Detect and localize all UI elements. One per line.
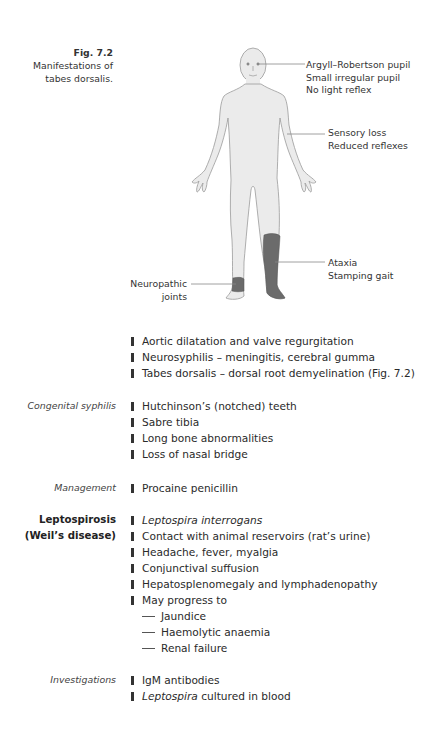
- callout-line: Sensory loss: [328, 127, 408, 140]
- list-item: Tabes dorsalis – dorsal root demyelinati…: [130, 365, 415, 381]
- list-item: May progress to: [130, 592, 377, 608]
- list-item: Aortic dilatation and valve regurgitatio…: [130, 333, 415, 349]
- list-item: Contact with animal reservoirs (rat’s ur…: [130, 528, 377, 544]
- bullet-list: Leptospira interrogans Contact with anim…: [130, 512, 377, 656]
- bullet-icon: [131, 402, 134, 411]
- right-eye: [257, 63, 259, 65]
- sub-list-item: Jaundice: [130, 608, 377, 624]
- list-item: Hutchinson’s (notched) teeth: [130, 398, 297, 414]
- callout-line: Reduced reflexes: [328, 140, 408, 153]
- callout-line: Small irregular pupil: [306, 72, 410, 85]
- bullet-list: Hutchinson’s (notched) teeth Sabre tibia…: [130, 398, 297, 462]
- bullet-icon: [131, 532, 134, 541]
- list-item: Hepatosplenomegaly and lymphadenopathy: [130, 576, 377, 592]
- callout-line: Stamping gait: [328, 270, 393, 283]
- list-item: Sabre tibia: [130, 414, 297, 430]
- list-item: IgM antibodies: [130, 672, 291, 688]
- callout-line: Ataxia: [328, 257, 393, 270]
- bullet-icon: [131, 548, 134, 557]
- bullet-icon: [131, 692, 134, 701]
- callout-line: No light reflex: [306, 84, 410, 97]
- bullet-icon: [131, 353, 134, 362]
- bullet-icon: [131, 434, 134, 443]
- head: [240, 48, 266, 82]
- list-item: Leptospira cultured in blood: [130, 688, 291, 704]
- section-label: Management: [0, 480, 116, 496]
- callout-arm: Sensory loss Reduced reflexes: [328, 127, 408, 152]
- callout-line: Argyll–Robertson pupil: [306, 59, 410, 72]
- bullet-icon: [131, 484, 134, 493]
- highlighted-ankle: [232, 277, 244, 291]
- bullet-icon: [131, 596, 134, 605]
- bullet-list: Procaine penicillin: [130, 480, 238, 496]
- bullet-icon: [131, 564, 134, 573]
- bullet-icon: [131, 337, 134, 346]
- bullet-list: Aortic dilatation and valve regurgitatio…: [130, 333, 415, 381]
- callout-line: Neuropathic: [130, 278, 187, 291]
- bullet-icon: [131, 580, 134, 589]
- list-item: Procaine penicillin: [130, 480, 238, 496]
- bullet-icon: [131, 418, 134, 427]
- section-label: Investigations: [0, 672, 116, 688]
- callout-eyes: Argyll–Robertson pupil Small irregular p…: [306, 59, 410, 97]
- section-label: Leptospirosis (Weil’s disease): [0, 512, 116, 544]
- dash-icon: [142, 648, 155, 649]
- callout-ankle: Neuropathic joints: [130, 278, 187, 303]
- body-silhouette: [192, 84, 316, 299]
- callout-leg: Ataxia Stamping gait: [328, 257, 393, 282]
- list-item: Long bone abnormalities: [130, 430, 297, 446]
- bullet-icon: [131, 369, 134, 378]
- list-item: Headache, fever, myalgia: [130, 544, 377, 560]
- list-item: Conjunctival suffusion: [130, 560, 377, 576]
- sub-list-item: Renal failure: [130, 640, 377, 656]
- bullet-list: IgM antibodies Leptospira cultured in bl…: [130, 672, 291, 704]
- left-eye: [247, 63, 249, 65]
- list-item: Leptospira interrogans: [130, 512, 377, 528]
- dash-icon: [142, 616, 155, 617]
- list-item: Loss of nasal bridge: [130, 446, 297, 462]
- sub-list-item: Haemolytic anaemia: [130, 624, 377, 640]
- highlighted-leg: [263, 234, 285, 299]
- bullet-icon: [131, 516, 134, 525]
- section-label: Congenital syphilis: [0, 398, 116, 414]
- dash-icon: [142, 632, 155, 633]
- callout-line: joints: [130, 291, 187, 304]
- bullet-icon: [131, 676, 134, 685]
- bullet-icon: [131, 450, 134, 459]
- list-item: Neurosyphilis – meningitis, cerebral gum…: [130, 349, 415, 365]
